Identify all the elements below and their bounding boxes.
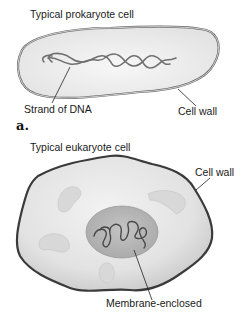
label-prokaryote-cell-wall: Cell wall (178, 106, 217, 117)
organelle-4 (99, 263, 114, 283)
prokaryote-cell (18, 27, 219, 106)
nucleus (86, 206, 158, 258)
label-eukaryote-cell-wall: Cell wall (195, 167, 234, 178)
cell-comparison-figure (0, 0, 244, 314)
euk-wall-pointer-line (196, 178, 210, 190)
panel-letter-a: a. (16, 119, 29, 132)
prokaryote-cell-wall (18, 27, 219, 98)
label-strand-of-dna: Strand of DNA (24, 104, 92, 115)
eukaryote-cell (17, 156, 212, 300)
prok-wall-pointer-line (178, 89, 196, 106)
eukaryote-title: Typical eukaryote cell (30, 142, 130, 153)
prokaryote-title: Typical prokaryote cell (30, 9, 134, 20)
label-membrane-enclosed: Membrane-enclosed (106, 298, 202, 309)
